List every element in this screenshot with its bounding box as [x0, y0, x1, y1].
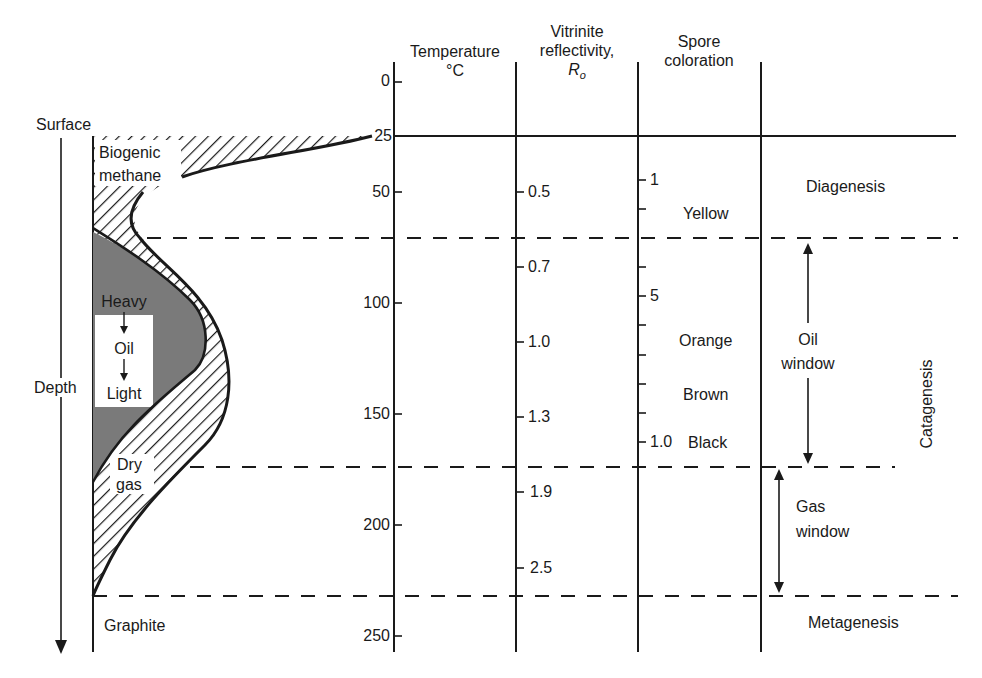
- vitrinite-header-line1: Vitrinite: [518, 22, 636, 41]
- diagenesis-label: Diagenesis: [806, 177, 885, 196]
- spore-header: Spore coloration: [640, 32, 758, 70]
- spore-color-orange: Orange: [679, 331, 732, 350]
- spore-tick-5: 5: [650, 286, 659, 305]
- dry-gas-label-2: gas: [116, 475, 142, 494]
- vitrinite-header: Vitrinite reflectivity, Ro: [518, 22, 636, 85]
- spore-color-yellow: Yellow: [683, 204, 729, 223]
- temperature-ticks: [394, 82, 402, 636]
- oil-heavy-label: Heavy: [95, 292, 153, 311]
- oil-label: Oil: [95, 339, 153, 358]
- oil-window-label-1: Oil: [770, 330, 846, 349]
- temperature-header: Temperature °C: [396, 42, 514, 80]
- temp-tick-200: 200: [350, 515, 390, 534]
- vr-tick-0.7: 0.7: [528, 257, 550, 276]
- temp-tick-50: 50: [350, 182, 390, 201]
- vitrinite-ticks: [516, 192, 524, 568]
- vitrinite-symbol: Ro: [518, 60, 636, 85]
- biogenic-label-1: Biogenic: [99, 143, 160, 162]
- spore-color-black: Black: [688, 433, 727, 452]
- vr-tick-0.5: 0.5: [528, 182, 550, 201]
- dry-gas-label-1: Dry: [117, 455, 142, 474]
- depth-label: Depth: [34, 378, 77, 397]
- oil-light-label: Light: [95, 384, 153, 403]
- metagenesis-label: Metagenesis: [808, 613, 899, 632]
- biogenic-label-2: methane: [99, 166, 161, 185]
- catagenesis-label: Catagenesis: [918, 356, 938, 452]
- vitrinite-header-line2: reflectivity,: [518, 41, 636, 60]
- oil-window-label-2: window: [770, 354, 846, 373]
- temp-tick-100: 100: [350, 293, 390, 312]
- spore-header-line2: coloration: [640, 51, 758, 70]
- spore-color-brown: Brown: [683, 385, 728, 404]
- gas-window-label-1: Gas: [796, 497, 825, 516]
- temp-tick-150: 150: [350, 404, 390, 423]
- temp-tick-250: 250: [350, 626, 390, 645]
- spore-header-line1: Spore: [640, 32, 758, 51]
- graphite-label: Graphite: [104, 616, 165, 635]
- spore-ticks: [638, 180, 646, 442]
- surface-label: Surface: [36, 115, 91, 134]
- temp-tick-25: 25: [350, 126, 392, 145]
- vr-tick-1.3: 1.3: [528, 407, 550, 426]
- temperature-unit: °C: [396, 61, 514, 80]
- gas-window-arrow-icon: [774, 469, 784, 593]
- temperature-header-text: Temperature: [396, 42, 514, 61]
- vr-tick-1.0: 1.0: [528, 332, 550, 351]
- spore-tick-10: 1.0: [650, 432, 672, 451]
- temp-tick-0: 0: [350, 71, 390, 90]
- vr-tick-2.5: 2.5: [530, 558, 552, 577]
- spore-tick-1: 1: [650, 170, 659, 189]
- gas-window-label-2: window: [796, 522, 849, 541]
- vr-tick-1.9: 1.9: [530, 482, 552, 501]
